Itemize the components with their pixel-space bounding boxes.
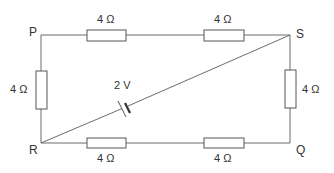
wire-diagonal-2 [128, 35, 290, 106]
node-label-r: R [29, 144, 38, 156]
cell-short-plate [125, 103, 130, 113]
circuit-diagram: P S R Q 4 Ω 4 Ω 4 Ω 4 Ω 4 Ω 4 Ω 2 V [0, 0, 334, 173]
resistor-label-right: 4 Ω [302, 84, 319, 95]
resistor-label-top-right: 4 Ω [214, 14, 231, 25]
resistor-right [285, 70, 296, 108]
resistor-label-left: 4 Ω [10, 84, 27, 95]
node-label-p: P [29, 26, 37, 38]
resistor-top-left [87, 30, 126, 41]
resistor-bottom-left [87, 138, 126, 148]
node-label-q: Q [296, 144, 305, 156]
resistor-label-top-left: 4 Ω [97, 14, 114, 25]
resistor-left [36, 71, 47, 109]
resistor-label-bottom-left: 4 Ω [97, 153, 114, 164]
resistor-top-right [204, 30, 244, 41]
cell-label: 2 V [114, 80, 131, 91]
circuit-drawing [0, 0, 334, 173]
resistor-label-bottom-right: 4 Ω [214, 153, 231, 164]
resistor-bottom-right [204, 138, 244, 148]
node-label-s: S [296, 28, 304, 40]
